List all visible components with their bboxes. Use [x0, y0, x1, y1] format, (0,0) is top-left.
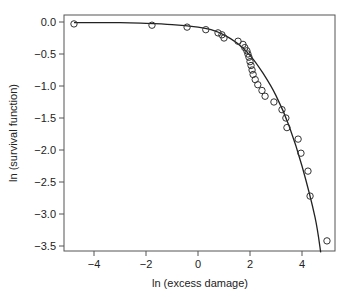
x-axis-label: ln (excess damage) — [152, 277, 248, 289]
data-point — [262, 93, 268, 99]
fitted-line — [74, 23, 321, 253]
chart: 0.0−0.5−1.0−1.5−2.0−2.5−3.0−3.5 −4−2024 … — [0, 0, 348, 297]
plot-border — [64, 15, 335, 251]
y-axis-label: ln (survival function) — [7, 84, 19, 182]
data-point — [295, 136, 301, 142]
data-point — [248, 62, 254, 68]
y-tick-label: −1.5 — [34, 112, 56, 124]
data-point — [71, 21, 77, 27]
y-tick-label: −3.5 — [34, 240, 56, 252]
y-axis: 0.0−0.5−1.0−1.5−2.0−2.5−3.0−3.5 — [34, 16, 64, 252]
x-axis: −4−2024 — [88, 251, 305, 270]
data-point — [305, 168, 311, 174]
data-point — [249, 67, 255, 73]
y-tick-label: −3.0 — [34, 208, 56, 220]
y-tick-label: −2.0 — [34, 144, 56, 156]
y-tick-label: −1.0 — [34, 80, 56, 92]
data-point — [255, 82, 261, 88]
x-tick-label: −2 — [140, 258, 153, 270]
plot-frame — [64, 15, 335, 251]
y-tick-label: 0.0 — [41, 16, 56, 28]
y-tick-label: −2.5 — [34, 176, 56, 188]
data-point — [203, 26, 209, 32]
y-tick-label: −0.5 — [34, 48, 56, 60]
x-tick-label: 4 — [299, 258, 305, 270]
data-point — [324, 238, 330, 244]
data-point — [184, 24, 190, 30]
x-tick-label: −4 — [88, 258, 101, 270]
x-tick-label: 2 — [247, 258, 253, 270]
fitted-curve — [74, 23, 321, 253]
data-point — [271, 99, 277, 105]
x-tick-label: 0 — [195, 258, 201, 270]
